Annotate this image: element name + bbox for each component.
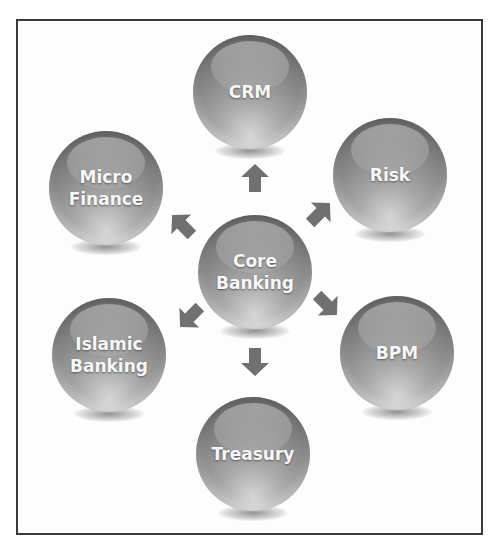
sphere: Micro Finance bbox=[49, 131, 163, 245]
node-label-bpm: BPM bbox=[376, 342, 418, 364]
node-label-micro-finance: Micro Finance bbox=[69, 166, 144, 210]
node-risk: Risk bbox=[333, 118, 447, 232]
node-label-core-banking: Core Banking bbox=[216, 250, 294, 294]
sphere: CRM bbox=[193, 35, 307, 149]
node-micro-finance: Micro Finance bbox=[49, 131, 163, 245]
node-treasury: Treasury bbox=[196, 397, 310, 511]
sphere: Core Banking bbox=[198, 215, 312, 329]
node-label-islamic-banking: Islamic Banking bbox=[70, 333, 148, 377]
arrow-up-icon bbox=[240, 163, 270, 193]
node-label-risk: Risk bbox=[370, 164, 410, 186]
node-label-crm: CRM bbox=[229, 81, 271, 103]
node-bpm: BPM bbox=[340, 296, 454, 410]
arrow-down-icon bbox=[240, 347, 270, 377]
sphere: Treasury bbox=[196, 397, 310, 511]
node-label-treasury: Treasury bbox=[212, 443, 295, 465]
node-core-banking: Core Banking bbox=[198, 215, 312, 329]
sphere: Risk bbox=[333, 118, 447, 232]
node-crm: CRM bbox=[193, 35, 307, 149]
node-islamic-banking: Islamic Banking bbox=[52, 298, 166, 412]
sphere: Islamic Banking bbox=[52, 298, 166, 412]
sphere: BPM bbox=[340, 296, 454, 410]
